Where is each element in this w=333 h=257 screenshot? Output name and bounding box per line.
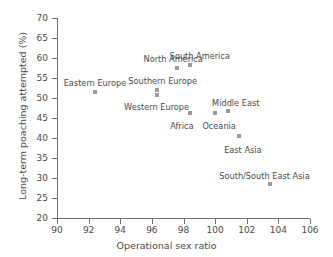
- x-tick-label: 92: [77, 226, 101, 235]
- y-tick-label: 20: [26, 214, 48, 223]
- y-tick-mark: [52, 18, 57, 19]
- y-tick-mark: [52, 158, 57, 159]
- y-tick-label: 40: [26, 134, 48, 143]
- x-tick-mark: [278, 219, 279, 224]
- x-tick-label: 96: [140, 226, 164, 235]
- x-tick-mark: [310, 219, 311, 224]
- x-tick-mark: [120, 219, 121, 224]
- x-tick-label: 94: [108, 226, 132, 235]
- data-point: [175, 66, 179, 70]
- x-axis-title: Operational sex ratio: [0, 240, 333, 251]
- data-point: [155, 88, 159, 92]
- y-tick-mark: [52, 118, 57, 119]
- data-point-label: Africa: [170, 122, 193, 131]
- y-tick-mark: [52, 38, 57, 39]
- data-point-label: East Asia: [224, 146, 261, 155]
- x-tick-mark: [89, 219, 90, 224]
- x-tick-label: 104: [266, 226, 290, 235]
- scatter-plot-figure: 2025303540455055606570 90929496981001021…: [0, 0, 333, 257]
- data-point: [213, 111, 217, 115]
- y-axis-line: [57, 18, 58, 219]
- x-tick-label: 106: [298, 226, 322, 235]
- x-tick-label: 98: [172, 226, 196, 235]
- y-tick-mark: [52, 78, 57, 79]
- y-tick-label: 45: [26, 114, 48, 123]
- y-tick-mark: [52, 58, 57, 59]
- x-tick-label: 102: [235, 226, 259, 235]
- y-tick-mark: [52, 198, 57, 199]
- data-point: [268, 182, 272, 186]
- data-point-label: Western Europe: [124, 103, 189, 112]
- y-tick-label: 50: [26, 94, 48, 103]
- y-tick-label: 70: [26, 14, 48, 23]
- x-tick-mark: [184, 219, 185, 224]
- y-tick-label: 60: [26, 54, 48, 63]
- x-tick-mark: [152, 219, 153, 224]
- data-point: [188, 111, 192, 115]
- x-tick-mark: [57, 219, 58, 224]
- data-point-label: Southern Europe: [128, 77, 197, 86]
- y-axis-title: Long-term poaching attempted (%): [17, 32, 28, 200]
- data-point: [188, 63, 192, 67]
- data-point-label: Oceania: [202, 122, 235, 131]
- data-point: [237, 134, 241, 138]
- x-tick-mark: [247, 219, 248, 224]
- y-tick-label: 65: [26, 34, 48, 43]
- y-tick-mark: [52, 178, 57, 179]
- y-tick-label: 25: [26, 194, 48, 203]
- y-tick-mark: [52, 98, 57, 99]
- data-point-label: South America: [170, 52, 230, 61]
- chart-screenshot: 2025303540455055606570 90929496981001021…: [0, 0, 333, 257]
- y-tick-label: 55: [26, 74, 48, 83]
- data-point-label: South/South East Asia: [219, 172, 309, 181]
- data-point: [226, 109, 230, 113]
- x-tick-label: 90: [45, 226, 69, 235]
- data-point-label: Eastern Europe: [64, 79, 127, 88]
- y-tick-mark: [52, 138, 57, 139]
- data-point-label: Middle East: [212, 99, 259, 108]
- y-tick-label: 30: [26, 174, 48, 183]
- y-tick-label: 35: [26, 154, 48, 163]
- x-tick-mark: [215, 219, 216, 224]
- x-tick-label: 100: [203, 226, 227, 235]
- data-point: [155, 93, 159, 97]
- data-point: [93, 90, 97, 94]
